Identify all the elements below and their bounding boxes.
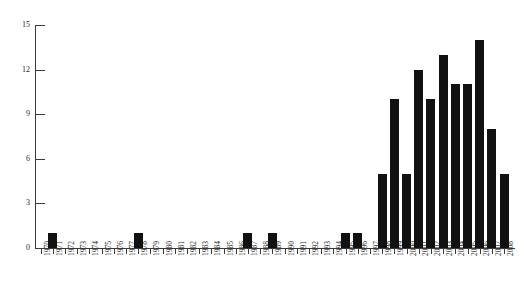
x-axis-tick: [138, 249, 139, 254]
bar: [268, 233, 277, 248]
bar: [439, 55, 448, 248]
x-axis-tick: [431, 249, 432, 254]
x-axis-tick: [346, 249, 347, 254]
bar: [402, 174, 411, 248]
bar: [48, 233, 57, 248]
bar: [134, 233, 143, 248]
bar: [390, 99, 399, 248]
x-axis-tick: [260, 249, 261, 254]
bar: [451, 84, 460, 248]
bar: [475, 40, 484, 248]
x-axis-tick: [370, 249, 371, 254]
bar-chart: 03691215 1970197119721973197419751976197…: [0, 0, 521, 281]
x-axis-tick: [480, 249, 481, 254]
x-axis-tick: [126, 249, 127, 254]
bar: [353, 233, 362, 248]
x-axis-tick: [41, 249, 42, 254]
x-axis-tick: [443, 249, 444, 254]
x-axis-tick: [297, 249, 298, 254]
x-axis-tick: [163, 249, 164, 254]
x-axis-tick: [321, 249, 322, 254]
bar: [341, 233, 350, 248]
x-axis-tick: [248, 249, 249, 254]
x-axis-tick: [285, 249, 286, 254]
x-axis-tick: [309, 249, 310, 254]
bar: [500, 174, 509, 248]
bar: [243, 233, 252, 248]
x-axis-tick: [407, 249, 408, 254]
bar-series: [0, 0, 521, 248]
x-axis-tick: [492, 249, 493, 254]
x-axis-tick: [468, 249, 469, 254]
x-axis-tick: [187, 249, 188, 254]
x-axis-tick: [382, 249, 383, 254]
x-axis-tick: [77, 249, 78, 254]
x-axis-tick: [53, 249, 54, 254]
x-axis-tick: [114, 249, 115, 254]
bar: [378, 174, 387, 248]
x-axis-tick: [419, 249, 420, 254]
bar: [463, 84, 472, 248]
x-axis-tick: [199, 249, 200, 254]
x-axis-tick: [65, 249, 66, 254]
x-axis-tick: [175, 249, 176, 254]
bar: [426, 99, 435, 248]
bar: [414, 70, 423, 248]
x-axis-tick: [236, 249, 237, 254]
bar: [487, 129, 496, 248]
x-axis-tick: [224, 249, 225, 254]
x-axis-tick: [504, 249, 505, 254]
x-axis-tick: [358, 249, 359, 254]
x-axis-tick: [102, 249, 103, 254]
